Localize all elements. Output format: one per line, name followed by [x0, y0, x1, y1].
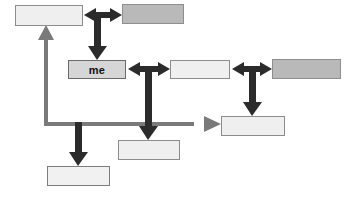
- node-top-left[interactable]: [15, 5, 83, 26]
- node-me[interactable]: me: [68, 60, 126, 79]
- center-down-arrow: [139, 66, 158, 140]
- diagram-canvas: me: [0, 0, 353, 197]
- top-to-me-down-arrow: [88, 14, 107, 60]
- right-down-arrow: [243, 66, 262, 116]
- left-branch-down-arrow: [69, 122, 88, 166]
- node-mid-right[interactable]: [272, 59, 341, 79]
- node-me-label: me: [89, 64, 105, 76]
- node-top-right[interactable]: [122, 4, 184, 24]
- node-bottom-left[interactable]: [47, 166, 110, 186]
- node-mid-center[interactable]: [170, 60, 230, 79]
- node-lower-right[interactable]: [221, 116, 285, 136]
- top-double-arrow: [84, 8, 122, 22]
- node-bottom-center[interactable]: [118, 140, 180, 160]
